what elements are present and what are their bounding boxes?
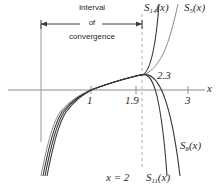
curve-label-s11: S11(x) xyxy=(146,172,170,184)
curve-label-s5: S5(x) xyxy=(184,2,205,14)
x-tick-label-3: 3 xyxy=(185,95,191,106)
x-equals-2-label: x = 2 xyxy=(106,172,129,183)
curve-label-s14: S14(x) xyxy=(144,2,169,14)
interval-label-line2: of xyxy=(62,19,122,27)
curve-label-s11-sub: 11 xyxy=(152,177,158,184)
x-tick-label-1-9: 1.9 xyxy=(125,95,139,106)
curve-label-s5-sub: 5 xyxy=(190,7,193,14)
y-value-label-2-3: 2.3 xyxy=(157,70,171,81)
x-tick-label-1: 1 xyxy=(87,95,93,106)
curve-label-s14-sub: 14 xyxy=(150,7,157,14)
x-axis-label: x xyxy=(207,83,212,94)
interval-label-line1: Interval xyxy=(62,4,122,12)
curve-label-s8: S8(x) xyxy=(180,140,201,152)
taylor-series-figure: Interval of convergence 1 1.9 3 2.3 x S1… xyxy=(0,0,218,191)
curve-label-s8-sub: 8 xyxy=(186,145,189,152)
interval-label-line3: convergence xyxy=(52,33,132,41)
